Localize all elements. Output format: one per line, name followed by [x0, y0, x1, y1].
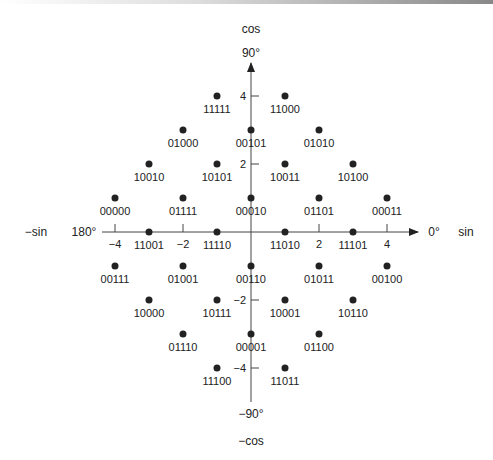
angle-bottom-label: −90° — [238, 407, 263, 421]
constellation-point — [350, 297, 357, 304]
y-negative-label: −cos — [238, 434, 264, 448]
point-label: 10011 — [270, 171, 300, 183]
x-tick-label: −4 — [109, 238, 122, 250]
point-label: 01101 — [304, 205, 334, 217]
constellation-point — [146, 229, 153, 236]
point-label: 11101 — [339, 239, 368, 251]
point-label: 11001 — [134, 239, 164, 251]
constellation-point — [146, 161, 153, 168]
constellation-point — [248, 195, 255, 202]
point-label: 00100 — [372, 273, 403, 285]
constellation-point — [384, 195, 391, 202]
y-tick-label: −4 — [233, 362, 246, 374]
point-label: 00010 — [236, 205, 267, 217]
point-label: 00111 — [101, 273, 130, 285]
x-tick-label: 4 — [384, 238, 390, 250]
constellation-point — [282, 365, 289, 372]
x-tick-label: −2 — [177, 238, 190, 250]
constellation-point — [282, 297, 289, 304]
point-label: 11000 — [270, 103, 300, 115]
point-label: 11111 — [203, 103, 230, 115]
constellation-point — [350, 161, 357, 168]
constellation-point — [214, 365, 221, 372]
x-positive-label: sin — [458, 225, 473, 239]
point-label: 00011 — [372, 205, 402, 217]
constellation-point — [180, 331, 187, 338]
y-tick-label: 4 — [240, 90, 246, 102]
point-label: 11110 — [203, 239, 231, 251]
point-label: 01100 — [304, 341, 334, 353]
constellation-point — [384, 263, 391, 270]
y-tick-label: −2 — [233, 294, 246, 306]
point-label: 11010 — [270, 239, 300, 251]
point-label: 01111 — [169, 205, 197, 217]
constellation-point — [282, 93, 289, 100]
angle-right-label: 0° — [428, 225, 440, 239]
point-label: 10001 — [270, 307, 301, 319]
constellation-point — [316, 195, 323, 202]
constellation-point — [316, 127, 323, 134]
constellation-point — [316, 263, 323, 270]
constellation-point — [180, 263, 187, 270]
point-label: 00000 — [100, 205, 131, 217]
point-label: 10010 — [134, 171, 165, 183]
point-label: 00001 — [236, 341, 267, 353]
constellation-point — [180, 195, 187, 202]
y-tick-label: 2 — [240, 158, 246, 170]
constellation-point — [282, 161, 289, 168]
constellation-point — [316, 331, 323, 338]
x-negative-label: −sin — [25, 225, 47, 239]
constellation-point — [146, 297, 153, 304]
y-positive-label: cos — [242, 22, 261, 36]
point-label: 01011 — [304, 273, 334, 285]
constellation-point — [248, 331, 255, 338]
x-tick-label: 2 — [316, 238, 322, 250]
point-label: 00110 — [236, 273, 266, 285]
point-label: 00101 — [236, 137, 267, 149]
angle-left-label: 180° — [72, 225, 97, 239]
constellation-point — [248, 127, 255, 134]
constellation-diagram: −4−22442−2−4 111111100001000001010101010… — [0, 0, 493, 460]
point-label: 11011 — [271, 375, 300, 387]
point-label: 01010 — [304, 137, 335, 149]
point-label: 01001 — [168, 273, 199, 285]
point-label: 01000 — [168, 137, 199, 149]
constellation-point — [248, 263, 255, 270]
point-label: 11100 — [203, 375, 232, 387]
constellation-point — [214, 93, 221, 100]
point-label: 10100 — [338, 171, 369, 183]
point-label: 01110 — [169, 341, 198, 353]
point-label: 10101 — [202, 171, 233, 183]
constellation-point — [214, 297, 221, 304]
constellation-point — [214, 229, 221, 236]
angle-top-label: 90° — [242, 46, 260, 60]
point-label: 10110 — [338, 307, 368, 319]
point-label: 10000 — [134, 307, 165, 319]
constellation-point — [282, 229, 289, 236]
constellation-point — [350, 229, 357, 236]
point-label: 10111 — [203, 307, 232, 319]
constellation-point — [112, 195, 119, 202]
constellation-point — [112, 263, 119, 270]
constellation-point — [214, 161, 221, 168]
constellation-point — [180, 127, 187, 134]
